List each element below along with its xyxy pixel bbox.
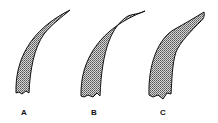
claw-b [81, 11, 145, 97]
claw-diagram [0, 0, 218, 123]
panel-label-c: C [160, 108, 166, 117]
claw-c [149, 12, 204, 99]
claw-a [16, 10, 70, 94]
panel-label-b: B [91, 108, 97, 117]
panel-label-a: A [21, 108, 27, 117]
